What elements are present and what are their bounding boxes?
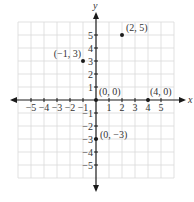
y-axis-arrow-up — [93, 12, 99, 19]
x-tick-label: −2 — [65, 102, 76, 113]
x-tick-label: 4 — [146, 102, 151, 113]
x-axis-arrow-right — [179, 97, 186, 103]
data-points: (2, 5)(−1, 3)(0, 0)(4, 0)(0, −3) — [54, 22, 172, 141]
data-point — [81, 59, 85, 63]
x-tick-label: −3 — [52, 102, 63, 113]
y-tick-label: 3 — [88, 56, 93, 67]
y-axis-label: y — [92, 0, 98, 11]
point-label: (4, 0) — [150, 86, 172, 98]
x-axis-label: x — [187, 94, 193, 105]
x-tick-label: 3 — [133, 102, 138, 113]
coordinate-plane: x y −5−4−3−2−112345 54321−1−2−3−4−5 (2, … — [0, 0, 194, 202]
y-tick-label: 4 — [88, 43, 93, 54]
point-label: (0, 0) — [99, 86, 121, 98]
y-tick-label: −2 — [82, 121, 93, 132]
data-point — [120, 33, 124, 37]
x-tick-label: 1 — [107, 102, 112, 113]
data-point — [146, 98, 150, 102]
y-tick-label: −5 — [82, 160, 93, 171]
x-axis-arrow-left — [10, 97, 17, 103]
y-tick-label: 1 — [88, 82, 93, 93]
x-tick-label: −4 — [39, 102, 50, 113]
data-point — [94, 137, 98, 141]
point-label: (−1, 3) — [54, 48, 81, 60]
x-tick-label: −5 — [26, 102, 37, 113]
point-label: (2, 5) — [126, 22, 148, 34]
y-tick-label: −4 — [82, 147, 93, 158]
y-tick-label: −3 — [82, 134, 93, 145]
point-label: (0, −3) — [100, 129, 127, 141]
x-tick-label: 2 — [120, 102, 125, 113]
y-tick-label: −1 — [82, 108, 93, 119]
data-point — [94, 98, 98, 102]
y-tick-label: 2 — [88, 69, 93, 80]
y-tick-label: 5 — [88, 30, 93, 41]
y-axis-arrow-down — [93, 185, 99, 192]
x-tick-label: 5 — [159, 102, 164, 113]
